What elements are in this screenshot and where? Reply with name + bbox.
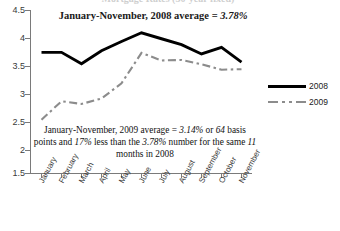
legend-label-2008: 2008: [309, 81, 328, 91]
annotation-line2-value1: 17%: [75, 137, 92, 147]
legend-item-2009: 2009: [268, 94, 328, 110]
chart-legend: 2008 2009: [268, 78, 328, 110]
annotation-line1-prefix: January-November, 2009 average =: [44, 125, 179, 135]
legend-item-2008: 2008: [268, 78, 328, 94]
annotation-line1-value2: 64: [216, 125, 225, 135]
legend-swatch-dashdot-icon: [268, 97, 306, 107]
annotation-line1-mid: or: [203, 125, 215, 135]
annotation-line3-post: months in 2008: [116, 149, 174, 159]
annotation-line2-mid: less than the: [92, 137, 143, 147]
annotation-line2-post: number: [166, 137, 197, 147]
annotation-line3-value1: 11: [248, 137, 257, 147]
annotation-line2-value2: 3.78%: [142, 137, 166, 147]
plot-area: [0, 0, 340, 231]
line-series-2009: [42, 53, 242, 120]
legend-swatch-solid-icon: [268, 81, 306, 91]
annotation-2009-comparison: January-November, 2009 average = 3.14% o…: [33, 124, 257, 161]
chart-container: Mortgage Rates (30-year fixed) January-N…: [0, 0, 340, 231]
annotation-line3-prefix: for the same: [199, 137, 247, 147]
line-series-2008: [42, 33, 242, 64]
legend-label-2009: 2009: [309, 97, 328, 107]
annotation-line1-value1: 3.14%: [179, 125, 203, 135]
